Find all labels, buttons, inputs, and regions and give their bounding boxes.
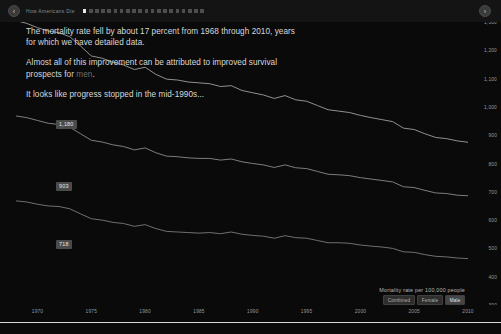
legend-title: Mortality rate per 100,000 people [379, 287, 465, 293]
header-bar: ‹ How Americans Die › [0, 0, 501, 22]
footer-strip [0, 323, 501, 334]
legend-button-male[interactable]: Male [445, 295, 465, 305]
pagination-dot-10[interactable] [145, 9, 149, 13]
narrative-paragraph-1: The mortality rate fell by about 17 perc… [26, 26, 298, 48]
visualization-app: ‹ How Americans Die › 1,180 903 718 The … [0, 0, 501, 334]
back-button[interactable]: ‹ [8, 5, 20, 17]
pagination-dot-5[interactable] [114, 9, 118, 13]
pagination-dot-14[interactable] [169, 9, 173, 13]
chart-line-combined[interactable] [16, 116, 468, 196]
pagination-dot-16[interactable] [182, 9, 186, 13]
x-axis-tick-1985: 1985 [193, 309, 204, 314]
narrative-highlight-men[interactable]: men [76, 70, 92, 79]
pagination-dots[interactable] [83, 9, 479, 13]
pagination-dot-6[interactable] [120, 9, 124, 13]
pagination-dot-2[interactable] [95, 9, 99, 13]
x-axis-tick-1975: 1975 [86, 309, 97, 314]
pagination-dot-12[interactable] [157, 9, 161, 13]
line-label-female: 718 [56, 240, 72, 249]
pagination-dot-0[interactable] [83, 9, 87, 13]
pagination-dot-17[interactable] [188, 9, 192, 13]
pagination-dot-8[interactable] [132, 9, 136, 13]
pagination-dot-18[interactable] [194, 9, 198, 13]
x-axis-tick-2005: 2005 [408, 309, 419, 314]
narrative-p2-after: . [92, 70, 94, 79]
line-label-combined: 903 [56, 182, 72, 191]
pagination-dot-4[interactable] [107, 9, 111, 13]
forward-button[interactable]: › [479, 5, 491, 17]
pagination-dot-19[interactable] [200, 9, 204, 13]
y-axis-tick-400: 400 [488, 274, 497, 279]
narrative-paragraph-3: It looks like progress stopped in the mi… [26, 89, 298, 100]
y-axis-tick-1200: 1,200 [484, 48, 497, 53]
narrative-paragraph-2: Almost all of this improvement can be at… [26, 57, 298, 79]
narrative-panel: The mortality rate fell by about 17 perc… [26, 26, 298, 100]
pagination-dot-3[interactable] [101, 9, 105, 13]
x-axis-tick-1970: 1970 [32, 309, 43, 314]
x-axis-tick-1990: 1990 [247, 309, 258, 314]
pagination-dot-13[interactable] [163, 9, 167, 13]
legend-button-combined[interactable]: Combined [383, 295, 415, 305]
pagination-dot-11[interactable] [151, 9, 155, 13]
y-axis-tick-800: 800 [488, 161, 497, 166]
x-axis: 197019751980198519901995200020052010 [0, 305, 501, 323]
legend-buttons: CombinedFemaleMale [379, 295, 465, 305]
y-axis-tick-600: 600 [488, 218, 497, 223]
legend: Mortality rate per 100,000 people Combin… [379, 287, 465, 305]
y-axis: 3004005006007008009001,0001,1001,2001,30… [468, 22, 501, 305]
forward-button-wrap: › [479, 5, 493, 17]
line-label-male: 1,180 [56, 120, 77, 129]
y-axis-tick-1100: 1,100 [484, 76, 497, 81]
y-axis-tick-700: 700 [488, 189, 497, 194]
x-axis-tick-1980: 1980 [139, 309, 150, 314]
x-axis-tick-2000: 2000 [355, 309, 366, 314]
y-axis-tick-500: 500 [488, 246, 497, 251]
pagination-dot-1[interactable] [89, 9, 93, 13]
x-axis-tick-1995: 1995 [301, 309, 312, 314]
pagination-dot-15[interactable] [176, 9, 180, 13]
y-axis-tick-900: 900 [488, 133, 497, 138]
x-axis-tick-2010: 2010 [462, 309, 473, 314]
chart-line-female[interactable] [16, 201, 468, 259]
y-axis-tick-1000: 1,000 [484, 104, 497, 109]
legend-button-female[interactable]: Female [417, 295, 443, 305]
pagination-dot-9[interactable] [138, 9, 142, 13]
narrative-p2-before: Almost all of this improvement can be at… [26, 58, 277, 78]
brand-title: How Americans Die [26, 8, 75, 14]
pagination-dot-7[interactable] [126, 9, 130, 13]
